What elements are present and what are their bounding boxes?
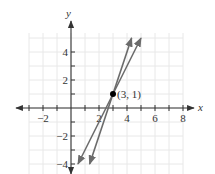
- intersection-point: [110, 91, 116, 97]
- coordinate-plane: xy −2246842−2−4 (3, 1): [0, 0, 215, 174]
- plotted-lines: [78, 38, 141, 164]
- y-tick-label: −2: [56, 130, 68, 142]
- plotted-line: [78, 38, 141, 164]
- x-axis-label: x: [197, 101, 203, 113]
- x-tick-label: 4: [124, 112, 130, 124]
- y-tick-label: 4: [63, 46, 69, 58]
- intersection-label: (3, 1): [117, 88, 141, 101]
- x-tick-label: −2: [37, 112, 49, 124]
- axes: xy: [16, 7, 203, 174]
- x-tick-label: 8: [180, 112, 186, 124]
- y-axis-label: y: [65, 7, 71, 19]
- y-tick-label: −4: [56, 158, 68, 170]
- grid: [29, 33, 183, 174]
- y-tick-label: 2: [63, 74, 69, 86]
- x-tick-label: 6: [152, 112, 158, 124]
- plotted-line: [90, 38, 132, 164]
